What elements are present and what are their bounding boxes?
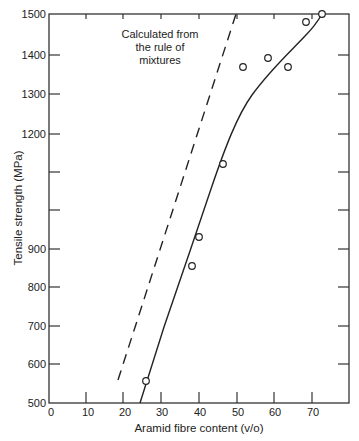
x-label-20: 20: [119, 406, 131, 418]
x-ticks-bottom: [86, 392, 312, 403]
data-point: [303, 19, 310, 26]
chart-svg: 1500 1400 1300 1200 900 800 700 600 500 …: [0, 0, 359, 441]
annotation: Calculated from the rule of mixtures: [121, 28, 198, 66]
y-tick-labels: 1500 1400 1300 1200 900 800 700 600 500: [22, 8, 46, 409]
x-label-0: 0: [48, 406, 54, 418]
y-label-600: 600: [28, 358, 46, 370]
fitted-curve: [140, 14, 322, 403]
y-label-1300: 1300: [22, 88, 46, 100]
x-label-70: 70: [307, 406, 319, 418]
rule-of-mixtures-line: [118, 14, 236, 380]
annotation-line-1: Calculated from: [121, 28, 198, 40]
data-point: [285, 64, 292, 71]
plot-frame: [49, 14, 349, 403]
y-label-1400: 1400: [22, 49, 46, 61]
annotation-line-2: the rule of: [136, 41, 186, 53]
y-label-500: 500: [28, 397, 46, 409]
x-label-10: 10: [82, 406, 94, 418]
x-label-30: 30: [156, 406, 168, 418]
data-point: [265, 55, 272, 62]
x-axis-title: Aramid fibre content (v/o): [134, 422, 263, 434]
y-axis-title: Tensile strength (MPa): [12, 150, 24, 265]
y-label-1200: 1200: [22, 128, 46, 140]
annotation-line-3: mixtures: [139, 54, 181, 66]
x-label-40: 40: [194, 406, 206, 418]
x-label-50: 50: [232, 406, 244, 418]
x-label-60: 60: [269, 406, 281, 418]
y-ticks-left: [49, 55, 60, 364]
data-point: [196, 234, 203, 241]
y-label-900: 900: [28, 243, 46, 255]
y-ticks-right: [338, 55, 349, 364]
data-points: [143, 11, 326, 385]
data-point: [189, 263, 196, 270]
chart-container: 1500 1400 1300 1200 900 800 700 600 500 …: [0, 0, 359, 441]
data-point: [143, 378, 150, 385]
data-point: [220, 161, 227, 168]
x-tick-labels: 0 10 20 30 40 50 60 70: [48, 406, 319, 418]
y-label-1500: 1500: [22, 8, 46, 20]
x-ticks-top: [86, 14, 312, 19]
y-label-800: 800: [28, 281, 46, 293]
data-point: [319, 11, 326, 18]
data-point: [240, 64, 247, 71]
y-label-700: 700: [28, 320, 46, 332]
